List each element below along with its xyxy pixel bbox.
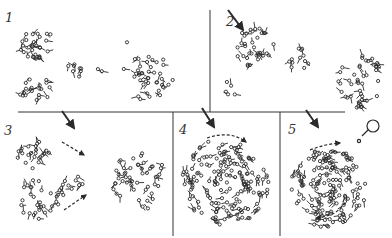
figure-canvas: 1 2 3 4 5 xyxy=(0,0,392,238)
attractor-circle xyxy=(357,120,379,143)
panel-label-4: 4 xyxy=(178,122,187,137)
direction-arrows xyxy=(62,10,318,128)
panel-label-1: 1 xyxy=(5,10,13,25)
panel-label-3: 3 xyxy=(4,123,12,138)
aggregation-figure: 1 2 3 4 5 xyxy=(0,0,392,238)
panel-label-5: 5 xyxy=(288,122,296,137)
